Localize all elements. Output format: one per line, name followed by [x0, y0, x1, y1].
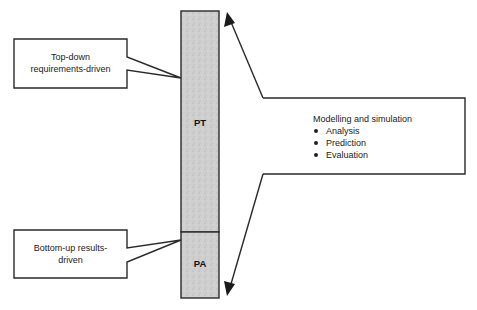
bar-label-pt: PT [181, 117, 219, 128]
list-item-label: Prediction [326, 138, 366, 148]
vertical-bar [181, 11, 219, 298]
callout-top-left-text: Top-down requirements-driven [14, 51, 127, 75]
list-item-label: Evaluation [326, 150, 368, 160]
arrow-down-shaft [231, 174, 263, 284]
bullet-icon [314, 129, 318, 133]
bar-label-pa: PA [181, 258, 219, 269]
callout-right-title: Modelling and simulation [313, 113, 412, 125]
callout-bottom-left-line-1: Bottom-up results- [14, 242, 127, 254]
callout-right-text: Modelling and simulation Analysis Predic… [313, 113, 412, 161]
bullet-icon [314, 141, 318, 145]
list-item: Prediction [313, 137, 412, 149]
callout-bottom-left-line-2: driven [14, 254, 127, 266]
list-item: Evaluation [313, 149, 412, 161]
list-item: Analysis [313, 125, 412, 137]
list-item-label: Analysis [326, 126, 360, 136]
callout-top-left-line-2: requirements-driven [14, 63, 127, 75]
arrow-up-head-icon [224, 12, 235, 27]
callout-top-left-line-1: Top-down [14, 51, 127, 63]
arrow-up-shaft [231, 22, 263, 98]
bullet-icon [314, 153, 318, 157]
arrow-down-head-icon [224, 281, 235, 296]
callout-bottom-left-text: Bottom-up results- driven [14, 242, 127, 266]
callout-right-list: Analysis Prediction Evaluation [313, 125, 412, 161]
